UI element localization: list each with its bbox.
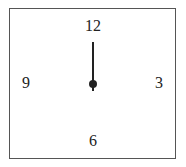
numeral-12: 12 (81, 18, 105, 34)
numeral-3: 3 (147, 75, 171, 91)
numeral-9: 9 (14, 75, 38, 91)
center-pivot (89, 80, 97, 88)
numeral-6: 6 (81, 133, 105, 149)
